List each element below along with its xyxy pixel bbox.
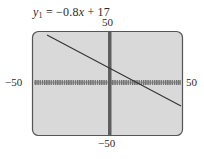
y-max-label: 50 — [102, 17, 113, 28]
y-axis — [108, 32, 112, 135]
y-min-label: −50 — [98, 138, 115, 149]
x-min-label: −50 — [5, 77, 22, 88]
x-max-label: 50 — [186, 77, 197, 88]
x-axis-band — [34, 82, 181, 84]
